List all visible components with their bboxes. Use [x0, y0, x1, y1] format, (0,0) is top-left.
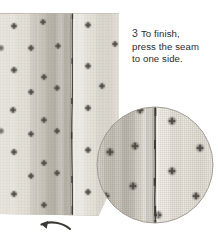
fabric-top-edge: [0, 13, 119, 14]
step-number: 3: [132, 28, 141, 39]
press-direction-arrow: [42, 221, 71, 229]
seam-shadow: [64, 11, 71, 219]
illustration-canvas: 3 To finish, press the seam to one side.: [0, 0, 218, 247]
instruction-body: To finish, press the seam to one side.: [132, 28, 199, 64]
instruction-text-block: 3 To finish, press the seam to one side.: [132, 16, 214, 66]
